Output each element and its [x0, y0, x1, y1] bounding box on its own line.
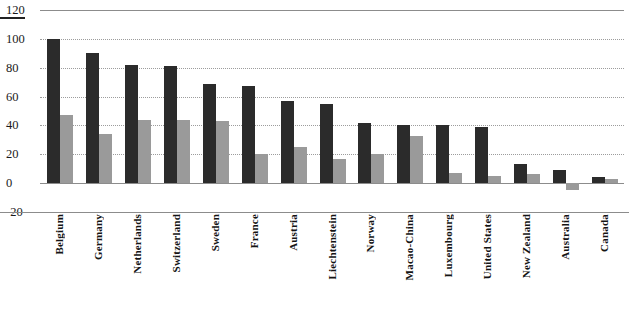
bar [371, 154, 384, 183]
bar-group [553, 10, 579, 212]
bars-layer [40, 10, 624, 212]
bar-group [242, 10, 268, 212]
y-tick-label: 40 [0, 119, 36, 132]
plot-area [40, 10, 624, 212]
bar [60, 115, 73, 183]
x-axis-label: Luxembourg [443, 214, 454, 277]
y-tick-label: 20 [0, 148, 36, 161]
bar [397, 125, 410, 183]
bar [255, 154, 268, 183]
bar-group [514, 10, 540, 212]
x-axis-label: Canada [599, 214, 610, 252]
bar [605, 179, 618, 183]
bar [294, 147, 307, 183]
y-tick-label: 60 [0, 91, 36, 104]
y-tick-label: 0 [0, 177, 36, 190]
bar [47, 39, 60, 183]
bar [86, 53, 99, 183]
bar-group [320, 10, 346, 212]
bar [164, 66, 177, 183]
x-axis-label: France [249, 214, 260, 248]
x-axis-label: Belgium [54, 214, 65, 255]
bar [410, 136, 423, 184]
bar [125, 65, 138, 183]
bar [203, 84, 216, 184]
x-axis-label: Netherlands [132, 214, 143, 274]
bar [475, 127, 488, 183]
x-axis-labels: BelgiumGermanyNetherlandsSwitzerlandSwed… [40, 214, 624, 313]
bar-group [592, 10, 618, 212]
x-axis-label: Switzerland [171, 214, 182, 272]
bar [488, 176, 501, 183]
x-axis-label: Macao-China [404, 214, 415, 280]
bar-group [164, 10, 190, 212]
bar [358, 123, 371, 184]
bar [177, 120, 190, 183]
y-tick-label: 120 [0, 4, 36, 19]
bar [333, 159, 346, 184]
bar-chart: 120100806040200-20 BelgiumGermanyNetherl… [0, 0, 629, 313]
x-axis-label: United States [482, 214, 493, 279]
x-axis-label: Germany [93, 214, 104, 260]
y-tick-label: 80 [0, 62, 36, 75]
x-axis-label: Sweden [210, 214, 221, 251]
bar-group [203, 10, 229, 212]
bar-group [475, 10, 501, 212]
bar [281, 101, 294, 183]
bar-group [436, 10, 462, 212]
bar [216, 121, 229, 183]
x-axis-label: Liechtenstein [327, 214, 338, 280]
bar [99, 134, 112, 183]
bar [566, 183, 579, 190]
bar [514, 164, 527, 183]
bar [527, 174, 540, 183]
bar-group [358, 10, 384, 212]
bar-group [281, 10, 307, 212]
x-axis-label: Austria [288, 214, 299, 251]
bar [242, 86, 255, 183]
x-axis-label: New Zealand [521, 214, 532, 278]
bar-group [125, 10, 151, 212]
bar [553, 170, 566, 183]
bar-group [47, 10, 73, 212]
bar-group [86, 10, 112, 212]
bar [592, 177, 605, 183]
x-axis-rule [0, 212, 629, 213]
y-tick-label: 100 [0, 33, 36, 46]
bar-group [397, 10, 423, 212]
bar [449, 173, 462, 183]
bar [138, 120, 151, 183]
x-axis-label: Australia [560, 214, 571, 260]
bar [436, 125, 449, 183]
x-axis-label: Norway [365, 214, 376, 252]
bar [320, 104, 333, 183]
